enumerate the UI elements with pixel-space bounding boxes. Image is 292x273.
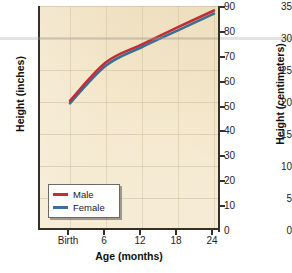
ytick-left-35: 35: [258, 2, 292, 12]
y-axis-title-right: Height (centimeters): [274, 19, 286, 169]
x-axis-title: Age (months): [38, 250, 220, 262]
tickmark-right-80: [220, 31, 225, 33]
tickmark-right-50: [220, 106, 225, 108]
legend-label-female: Female: [73, 202, 105, 213]
xtick-18: 18: [156, 236, 196, 246]
ytick-right-60: 60: [224, 77, 250, 87]
ytick-right-10: 10: [224, 201, 250, 211]
tickmark-right-90: [220, 6, 225, 8]
ytick-right-0: 0: [224, 226, 250, 236]
xtick-12: 12: [120, 236, 160, 246]
tickmark-right-40: [220, 130, 225, 132]
growth-chart-figure: Male Female 35 30 25 20 15 10 5 0 90 80 …: [0, 0, 292, 273]
ytick-right-70: 70: [224, 52, 250, 62]
xtick-6: 6: [84, 236, 124, 246]
chart-legend: Male Female: [48, 184, 120, 218]
ytick-left-5: 5: [258, 194, 292, 204]
legend-swatch-female-icon: [53, 206, 68, 209]
tickmark-right-30: [220, 155, 225, 157]
ytick-right-90: 90: [224, 2, 250, 12]
legend-label-male: Male: [73, 189, 94, 200]
legend-item-male: Male: [53, 188, 115, 201]
xtick-birth: Birth: [48, 236, 88, 246]
tickmark-right-70: [220, 56, 225, 58]
y-axis-title-left: Height (inches): [14, 39, 26, 149]
plot-area: Male Female: [38, 6, 218, 230]
tickmark-right-60: [220, 81, 225, 83]
right-axis-spine: [218, 6, 220, 232]
ytick-right-50: 50: [224, 102, 250, 112]
legend-swatch-male-icon: [53, 193, 68, 196]
ytick-right-30: 30: [224, 151, 250, 161]
ytick-left-0: 0: [258, 226, 292, 236]
tickmark-right-20: [220, 180, 225, 182]
series-line-female: [70, 14, 214, 104]
ytick-right-40: 40: [224, 126, 250, 136]
ytick-right-80: 80: [224, 27, 250, 37]
ytick-right-20: 20: [224, 176, 250, 186]
legend-item-female: Female: [53, 201, 115, 214]
xtick-24: 24: [192, 236, 232, 246]
tickmark-right-10: [220, 205, 225, 207]
